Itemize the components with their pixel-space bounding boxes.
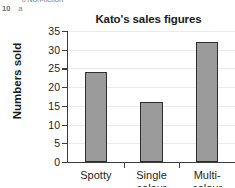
y-axis-line <box>67 31 68 163</box>
fragment-question-line: 10a <box>2 4 23 13</box>
plot-area <box>68 31 235 162</box>
x-axis-category-label: Spotty <box>68 169 124 182</box>
y-axis-tick-label: 20 <box>34 82 60 92</box>
bar[interactable] <box>85 72 107 162</box>
x-axis-tick <box>124 163 125 168</box>
x-axis-category-label: Singlecolour <box>124 169 180 187</box>
y-axis-title: Numbers sold <box>11 31 23 131</box>
category-label-line: Spotty <box>68 169 124 182</box>
category-label-line: Single <box>124 169 180 182</box>
y-axis-tick-label: 10 <box>34 120 60 130</box>
list-bullet-label: b <box>22 0 25 3</box>
y-axis-tick-label: 35 <box>34 26 60 36</box>
question-number-label: 10 <box>2 4 10 13</box>
chart-title: Kato's sales figures <box>62 13 235 25</box>
y-axis-tick-label: 15 <box>34 101 60 111</box>
category-label-line: colour <box>124 182 180 188</box>
question-part-label: a <box>18 4 22 13</box>
bar-chart: Kato's sales figures Numbers sold 051015… <box>0 13 235 187</box>
y-axis-tick-label: 0 <box>34 157 60 167</box>
bar[interactable] <box>140 102 162 162</box>
category-label-line: colour <box>179 182 235 188</box>
y-axis-tick-label: 30 <box>34 45 60 55</box>
gridline <box>68 31 235 32</box>
x-axis-line <box>67 162 235 163</box>
bar[interactable] <box>196 42 218 162</box>
y-axis-tick-label: 25 <box>34 63 60 73</box>
x-axis-category-label: Multi-colour <box>179 169 235 187</box>
y-axis-tick-label: 5 <box>34 138 60 148</box>
category-label-line: Multi- <box>179 169 235 182</box>
fragment-top-text: Non-fiction <box>27 0 63 4</box>
fragment-list-item: bNon-fiction <box>22 0 63 4</box>
x-axis-tick <box>179 163 180 168</box>
